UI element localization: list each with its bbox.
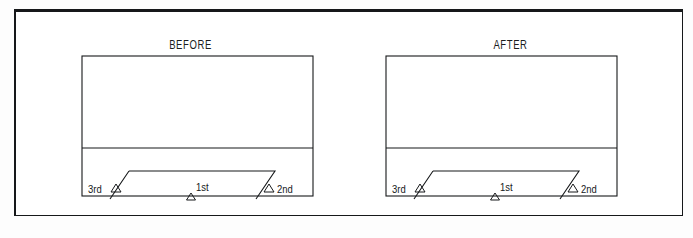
after-label-2nd: 2nd	[581, 183, 597, 195]
figure-root: BEFORE AFTER 3rd 1st 2nd	[0, 0, 693, 238]
before-label-3rd: 3rd	[88, 183, 102, 195]
after-label-3rd: 3rd	[392, 183, 406, 195]
figure-outer-frame: BEFORE AFTER 3rd 1st 2nd	[14, 9, 683, 216]
diagram-canvas: 3rd 1st 2nd 3rd 1st 2nd	[16, 12, 685, 219]
before-diagram-group: 3rd 1st 2nd	[82, 56, 313, 200]
before-label-1st: 1st	[196, 181, 209, 193]
before-label-2nd: 2nd	[277, 183, 293, 195]
after-label-1st: 1st	[500, 181, 513, 193]
before-outer-box	[82, 56, 313, 196]
after-outer-box	[386, 56, 617, 196]
after-diagram-group: 3rd 1st 2nd	[386, 56, 617, 200]
